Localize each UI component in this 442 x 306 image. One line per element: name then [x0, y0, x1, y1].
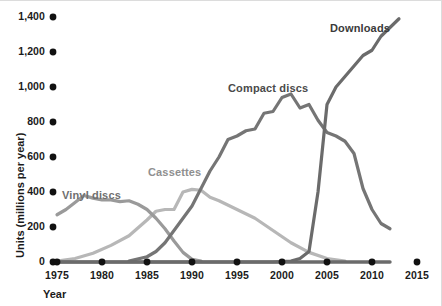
x-tick-dot — [324, 259, 331, 266]
x-tick-dot — [279, 259, 286, 266]
series-label-cassettes: Cassettes — [148, 166, 201, 178]
x-tick-dot — [54, 259, 61, 266]
series-line-vinyl-discs — [57, 196, 201, 262]
series-label-downloads: Downloads — [330, 22, 390, 34]
x-tick-dot — [144, 259, 151, 266]
series-label-vinyl-discs: Vinyl discs — [62, 189, 121, 201]
y-axis-title: Units (millions per year) — [14, 133, 26, 258]
x-tick-dot — [234, 259, 241, 266]
y-tick-dot — [50, 84, 57, 91]
x-tick-label: 2010 — [347, 269, 397, 281]
y-axis-tick-dots — [50, 14, 57, 266]
x-tick-label: 2000 — [257, 269, 307, 281]
x-tick-label: 1995 — [212, 269, 262, 281]
series-layer — [57, 19, 399, 262]
x-tick-label: 2015 — [392, 269, 442, 281]
y-tick-dot — [50, 189, 57, 196]
x-tick-label: 1975 — [32, 269, 82, 281]
x-tick-dot — [189, 259, 196, 266]
x-axis-title: Year — [43, 288, 66, 300]
y-tick-dot — [50, 154, 57, 161]
x-tick-label: 1985 — [122, 269, 172, 281]
y-tick-dot — [50, 224, 57, 231]
y-tick-dot — [50, 14, 57, 21]
x-tick-label: 1990 — [167, 269, 217, 281]
y-tick-label: 1,000 — [0, 80, 45, 92]
line-chart-plot — [0, 0, 442, 306]
x-tick-label: 1980 — [77, 269, 127, 281]
y-tick-label: 800 — [0, 115, 45, 127]
x-tick-label: 2005 — [302, 269, 352, 281]
x-tick-dot — [414, 259, 421, 266]
y-tick-dot — [50, 119, 57, 126]
x-tick-dot — [99, 259, 106, 266]
y-tick-dot — [50, 49, 57, 56]
y-tick-label: 1,400 — [0, 10, 45, 22]
series-label-compact-discs: Compact discs — [228, 82, 308, 94]
x-tick-dot — [369, 259, 376, 266]
y-tick-label: 1,200 — [0, 45, 45, 57]
chart-figure: 02004006008001,0001,2001,400 19751980198… — [0, 0, 442, 306]
